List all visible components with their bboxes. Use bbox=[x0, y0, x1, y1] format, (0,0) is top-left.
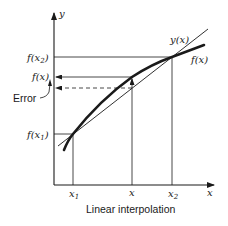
y-tick-fx1: f(x1) bbox=[26, 129, 49, 142]
x-tick-x2: x2 bbox=[168, 188, 179, 201]
linear-interpolation-diagram: y x f(x2) f(x) f(x1) x1 x x2 y(x) f(x) E… bbox=[0, 0, 228, 226]
error-label: Error bbox=[13, 92, 37, 104]
interpolant-line bbox=[58, 29, 208, 146]
y-tick-fx2: f(x2) bbox=[26, 52, 49, 65]
x-tick-x: x bbox=[129, 187, 135, 198]
function-curve bbox=[64, 45, 204, 150]
x-axis-label: x bbox=[207, 187, 213, 198]
y-tick-fx: f(x) bbox=[31, 71, 49, 82]
function-label: f(x) bbox=[190, 54, 208, 65]
x-tick-x1: x1 bbox=[69, 188, 79, 201]
y-axis-label: y bbox=[58, 8, 65, 19]
diagram-caption: Linear interpolation bbox=[86, 203, 175, 215]
error-pointer bbox=[40, 84, 50, 98]
interpolant-label: y(x) bbox=[169, 34, 189, 45]
